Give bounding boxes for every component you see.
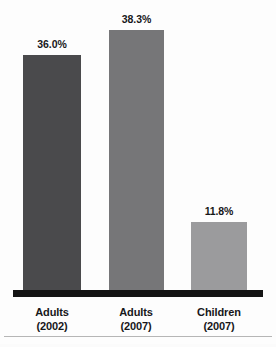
category-label-adults-2002-line2: (2002) [13,319,91,333]
bar-group-adults-2002: 36.0% [23,0,81,291]
plot-area: 36.0% 38.3% 11.8% [0,0,276,291]
category-label-adults-2007-line2: (2007) [97,319,175,333]
bar-chart-figure: 36.0% 38.3% 11.8% Adults (2002) Adults (… [0,0,276,347]
bar-group-adults-2007: 38.3% [109,0,164,291]
category-label-adults-2007: Adults (2007) [97,305,175,333]
category-label-adults-2002: Adults (2002) [13,305,91,333]
category-label-children-2007-line2: (2007) [180,319,258,333]
bar-value-label-children-2007: 11.8% [177,205,261,217]
category-axis: Adults (2002) Adults (2007) Children (20… [0,301,276,337]
category-label-adults-2007-line1: Adults [119,306,153,318]
bar-value-label-adults-2007: 38.3% [95,13,178,25]
axis-baseline [13,290,263,297]
bottom-divider-rule [4,336,272,337]
bar-rect-adults-2002[interactable] [23,55,81,291]
bar-rect-children-2007[interactable] [191,222,247,291]
category-label-children-2007: Children (2007) [180,305,258,333]
category-label-children-2007-line1: Children [197,306,241,318]
bar-group-children-2007: 11.8% [191,0,247,291]
bar-rect-adults-2007[interactable] [109,30,164,291]
category-label-adults-2002-line1: Adults [35,306,69,318]
bar-value-label-adults-2002: 36.0% [9,38,95,50]
